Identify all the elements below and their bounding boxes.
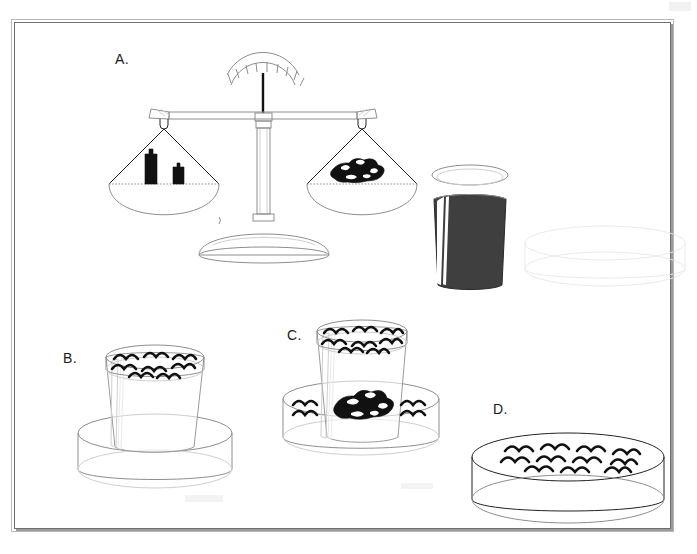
- panel-b: B.: [45, 313, 245, 513]
- panel-a-label: A.: [115, 51, 129, 67]
- panel-a: A.: [15, 23, 670, 285]
- scale-tick-mark: [219, 217, 221, 224]
- figure-frame: A.: [14, 22, 671, 529]
- cup: [317, 320, 407, 442]
- panel-d-label: D.: [493, 401, 508, 417]
- scan-smudge: [185, 495, 223, 502]
- dish-water-waves: [501, 445, 640, 473]
- scan-artifact-top-right: [669, 2, 691, 11]
- weights: [145, 149, 184, 184]
- dish-with-displaced-water: [465, 431, 675, 539]
- right-hook: [358, 119, 366, 129]
- panel-c: C.: [263, 305, 463, 505]
- left-hook: [160, 119, 168, 129]
- dish-water-waves-left: [293, 401, 317, 415]
- cup: [106, 345, 204, 452]
- empty-dish-ghost: [520, 221, 690, 301]
- cup-full-of-water: [423, 161, 517, 291]
- cup-in-empty-dish: [63, 327, 253, 507]
- balance-base: [199, 234, 329, 263]
- panel-d: D.: [455, 395, 675, 535]
- left-pan: [109, 129, 219, 215]
- balance-column: [253, 113, 274, 221]
- balance-scale: [143, 39, 383, 289]
- rocks-on-pan: [330, 159, 384, 183]
- scan-smudge: [401, 483, 433, 489]
- cup-with-rocks-overflowing: [273, 305, 453, 495]
- balance-dial: [227, 52, 304, 86]
